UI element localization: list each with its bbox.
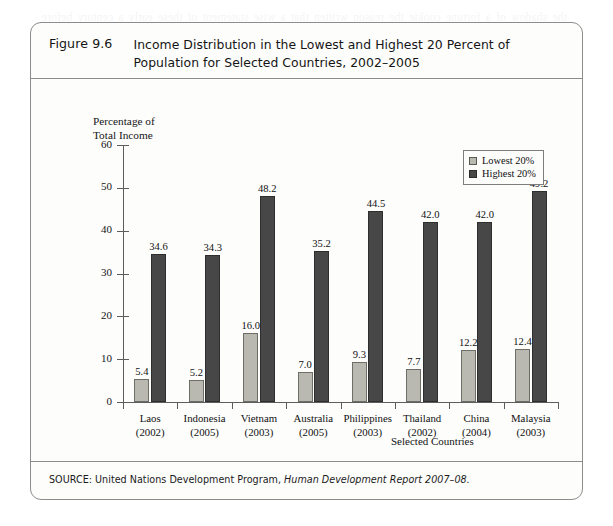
bar-value-label: 5.2 xyxy=(190,367,203,378)
category-name: China xyxy=(462,411,491,425)
legend-item-highest: Highest 20% xyxy=(469,167,536,180)
category-name: Malaysia xyxy=(511,411,551,425)
y-axis-tick-label: 10 xyxy=(101,352,112,364)
bar-highest-20: 49.2 xyxy=(532,191,547,402)
x-axis-tick xyxy=(232,402,233,409)
bar-value-label: 48.2 xyxy=(258,183,277,194)
bar-highest-20: 42.0 xyxy=(477,222,492,402)
bar-highest-20: 34.6 xyxy=(151,254,166,402)
x-axis-category-label: Indonesia(2005) xyxy=(184,411,226,439)
x-axis-category-label: Malaysia(2003) xyxy=(511,411,551,439)
y-axis-tick: 10 xyxy=(117,359,129,360)
figure-title: Income Distribution in the Lowest and Hi… xyxy=(133,36,563,71)
y-axis-tick-label: 0 xyxy=(107,395,113,407)
bar-value-label: 42.0 xyxy=(421,209,440,220)
y-axis-tick-label: 40 xyxy=(101,223,112,235)
figure-title-bar: Figure 9.6 Income Distribution in the Lo… xyxy=(31,23,582,79)
legend-item-lowest: Lowest 20% xyxy=(469,154,536,167)
x-axis-tick xyxy=(177,402,178,409)
y-axis-tick-label: 60 xyxy=(101,138,112,150)
bar-lowest-20: 7.7 xyxy=(406,369,421,402)
bar-value-label: 9.3 xyxy=(353,349,366,360)
x-axis-tick xyxy=(341,402,342,409)
bar-value-label: 35.2 xyxy=(312,238,331,249)
category-year: (2003) xyxy=(241,425,278,439)
x-axis-title: Selected Countries xyxy=(391,435,474,447)
category-name: Laos xyxy=(136,411,165,425)
bar-lowest-20: 5.2 xyxy=(189,380,204,402)
y-axis-tick-label: 20 xyxy=(101,309,112,321)
figure-box: Figure 9.6 Income Distribution in the Lo… xyxy=(30,22,583,500)
bar-lowest-20: 9.3 xyxy=(352,362,367,402)
bar-lowest-20: 16.0 xyxy=(243,333,258,402)
bar-value-label: 5.4 xyxy=(135,366,148,377)
y-axis-tick: 40 xyxy=(117,231,129,232)
bar-highest-20: 48.2 xyxy=(260,196,275,402)
category-name: Thailand xyxy=(403,411,441,425)
legend-label-lowest: Lowest 20% xyxy=(482,154,534,167)
y-axis-tick: 20 xyxy=(117,316,129,317)
bar-value-label: 7.0 xyxy=(298,359,311,370)
y-axis-tick-label: 30 xyxy=(101,266,112,278)
category-year: (2003) xyxy=(343,425,392,439)
bar-highest-20: 42.0 xyxy=(423,222,438,402)
figure-number: Figure 9.6 xyxy=(49,36,112,71)
y-axis-tick-label: 50 xyxy=(101,180,112,192)
category-year: (2005) xyxy=(294,425,334,439)
legend-swatch-highest-icon xyxy=(469,170,477,178)
x-axis-tick xyxy=(558,402,559,409)
bar-value-label: 34.6 xyxy=(149,241,168,252)
bar-highest-20: 34.3 xyxy=(205,255,220,402)
bar-value-label: 44.5 xyxy=(367,198,386,209)
figure-source-bar: SOURCE: United Nations Development Progr… xyxy=(31,461,582,499)
category-name: Philippines xyxy=(343,411,392,425)
bar-lowest-20: 5.4 xyxy=(134,379,149,402)
bar-lowest-20: 12.4 xyxy=(515,349,530,402)
x-axis-category-label: Laos(2002) xyxy=(136,411,165,439)
x-axis-tick xyxy=(504,402,505,409)
x-axis-tick xyxy=(123,402,124,409)
bar-lowest-20: 12.2 xyxy=(461,350,476,402)
y-axis-tick: 30 xyxy=(117,274,129,275)
source-publication: Human Development Report 2007–08. xyxy=(284,474,470,485)
bar-value-label: 34.3 xyxy=(204,242,223,253)
y-axis-tick: 60 xyxy=(117,145,129,146)
x-axis-tick xyxy=(395,402,396,409)
x-axis-category-label: Vietnam(2003) xyxy=(241,411,278,439)
bar-value-label: 12.4 xyxy=(513,336,532,347)
chart-legend: Lowest 20% Highest 20% xyxy=(463,150,544,185)
category-year: (2005) xyxy=(184,425,226,439)
figure-source: SOURCE: United Nations Development Progr… xyxy=(31,462,582,485)
y-axis-tick: 50 xyxy=(117,188,129,189)
category-name: Indonesia xyxy=(184,411,226,425)
x-axis-tick xyxy=(449,402,450,409)
bar-lowest-20: 7.0 xyxy=(298,372,313,402)
x-axis-tick xyxy=(286,402,287,409)
chart-area: Percentage of Total Income 0102030405060… xyxy=(31,79,583,500)
bar-highest-20: 44.5 xyxy=(368,211,383,402)
bar-value-label: 16.0 xyxy=(241,320,260,331)
category-name: Vietnam xyxy=(241,411,278,425)
category-year: (2002) xyxy=(136,425,165,439)
bar-value-label: 12.2 xyxy=(459,337,478,348)
bar-highest-20: 35.2 xyxy=(314,251,329,402)
legend-swatch-lowest-icon xyxy=(469,157,477,165)
category-year: (2003) xyxy=(511,425,551,439)
x-axis-category-label: Philippines(2003) xyxy=(343,411,392,439)
legend-label-highest: Highest 20% xyxy=(482,167,536,180)
bar-value-label: 42.0 xyxy=(475,209,494,220)
category-name: Australia xyxy=(294,411,334,425)
x-axis-category-label: Australia(2005) xyxy=(294,411,334,439)
bar-value-label: 7.7 xyxy=(407,356,420,367)
source-prefix: SOURCE: United Nations Development Progr… xyxy=(49,474,284,485)
